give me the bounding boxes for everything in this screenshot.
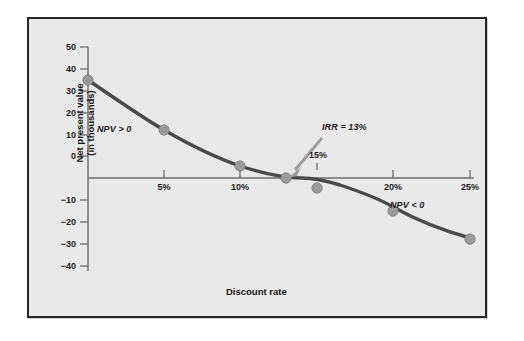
y-tick-label: −40 — [52, 261, 76, 271]
y-axis-title-line-1: Net present value — [74, 68, 85, 178]
annotation-npv-positive: NPV > 0 — [97, 124, 131, 134]
y-tick-label: 10 — [56, 130, 76, 140]
x-tick-label: 5% — [147, 182, 181, 192]
data-point — [235, 161, 245, 171]
y-tick-label: −10 — [52, 195, 76, 205]
y-axis-title: Net present value (in thousands) — [74, 68, 96, 178]
y-tick-label: −30 — [52, 239, 76, 249]
npv-curve — [88, 80, 470, 238]
annotation-irr-callout: IRR = 13% — [322, 122, 367, 132]
annotation-npv-negative: NPV < 0 — [390, 200, 424, 210]
y-tick-label: 50 — [56, 42, 76, 52]
data-point — [312, 183, 322, 193]
y-tick-label: −20 — [52, 217, 76, 227]
data-point — [465, 234, 475, 244]
x-axis-ticks — [164, 163, 470, 178]
x-tick-label: 15% — [301, 150, 335, 160]
y-axis-title-line-2: (in thousands) — [85, 68, 96, 178]
data-point-irr — [281, 173, 291, 183]
y-tick-label: 40 — [56, 64, 76, 74]
x-tick-label: 20% — [376, 182, 410, 192]
y-tick-label: 30 — [56, 86, 76, 96]
y-tick-label: 0 — [56, 151, 76, 161]
x-tick-label: 10% — [223, 182, 257, 192]
chart-figure: 50 40 30 20 10 0 −10 −20 −30 −40 5% 10% … — [0, 0, 524, 341]
x-tick-label: 25% — [453, 182, 487, 192]
y-tick-label: 20 — [56, 108, 76, 118]
data-point — [159, 125, 169, 135]
x-axis-title: Discount rate — [226, 286, 287, 297]
